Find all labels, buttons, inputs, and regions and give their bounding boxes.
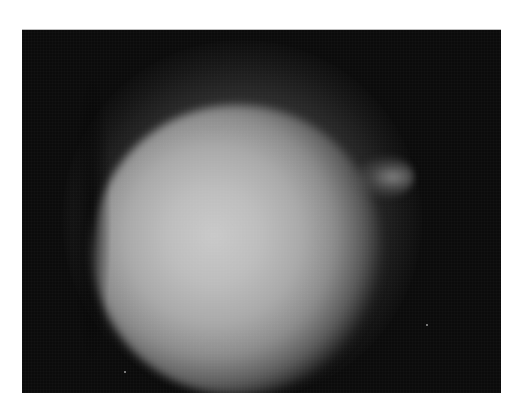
bright-glow — [92, 105, 382, 393]
speck — [124, 371, 126, 373]
speck — [426, 324, 428, 326]
photograph — [22, 29, 501, 393]
left-shadow — [72, 70, 112, 370]
right-protrusion — [354, 155, 414, 199]
